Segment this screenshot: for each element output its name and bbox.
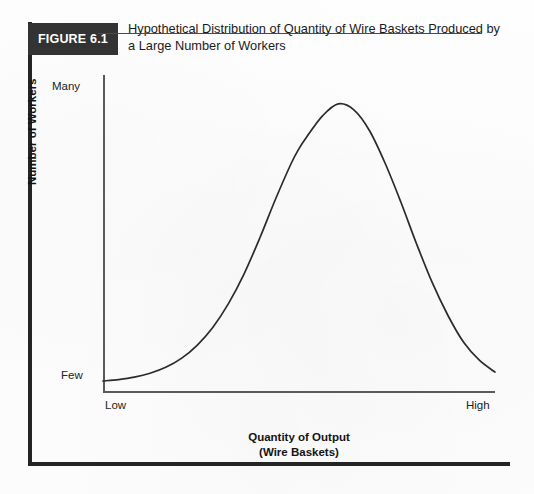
x-axis-title-line-1: Quantity of Output xyxy=(103,430,495,445)
y-axis-tick-few: Few xyxy=(61,369,83,381)
figure-number-label: FIGURE 6.1 xyxy=(38,32,108,46)
figure-caption-line-2: a Large Number of Workers xyxy=(128,38,510,55)
x-axis-title-line-2: (Wire Baskets) xyxy=(103,445,495,460)
figure-caption: Hypothetical Distribution of Quantity of… xyxy=(128,21,510,54)
x-axis-title: Quantity of Output (Wire Baskets) xyxy=(103,430,495,459)
x-axis-tick-low: Low xyxy=(105,399,126,411)
figure-header: FIGURE 6.1 Hypothetical Distribution of … xyxy=(28,23,510,57)
caption-underline xyxy=(98,33,482,34)
x-axis-tick-high: High xyxy=(466,399,490,411)
chart-plot-area xyxy=(103,75,495,393)
y-axis-title: Number of Workers xyxy=(26,78,38,185)
y-axis-tick-many: Many xyxy=(52,80,80,92)
figure-caption-line-1: Hypothetical Distribution of Quantity of… xyxy=(128,21,510,38)
figure-number-badge: FIGURE 6.1 xyxy=(28,23,118,55)
distribution-curve xyxy=(103,75,495,393)
